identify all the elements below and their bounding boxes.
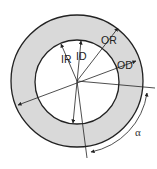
label-ir: IR xyxy=(61,53,72,65)
label-id: ID xyxy=(76,50,87,62)
label-alpha: α xyxy=(135,126,141,138)
label-od: OD xyxy=(117,59,133,71)
annulus-diagram: IR ID OR OD α xyxy=(0,0,157,169)
label-or: OR xyxy=(101,34,117,46)
